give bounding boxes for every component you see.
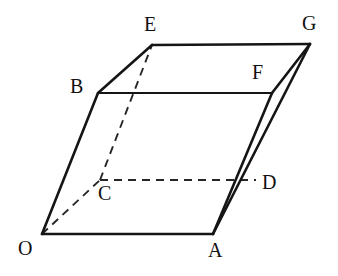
vertex-label-C: C	[98, 183, 111, 203]
figure-canvas	[0, 0, 338, 276]
edge-A-F	[213, 93, 272, 234]
vertex-label-F: F	[252, 62, 263, 82]
edge-O-C	[42, 180, 100, 234]
edge-E-G	[152, 44, 310, 45]
geometry-figure: O A B C D E F G	[0, 0, 338, 276]
vertex-label-E: E	[144, 14, 156, 34]
vertex-label-G: G	[302, 13, 316, 33]
vertex-label-D: D	[262, 172, 276, 192]
vertex-label-O: O	[18, 238, 32, 258]
edge-B-E	[98, 45, 152, 93]
solid-edges-group	[42, 44, 310, 234]
vertex-label-B: B	[70, 76, 83, 96]
edge-C-E	[100, 45, 152, 180]
vertex-label-A: A	[208, 240, 222, 260]
edge-F-G	[272, 44, 310, 93]
edge-O-B	[42, 93, 98, 234]
